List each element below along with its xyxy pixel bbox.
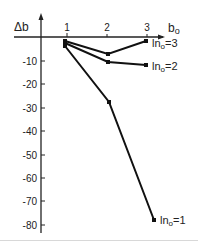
- svg-text:-70: -70: [23, 196, 38, 207]
- svg-text:1: 1: [64, 22, 70, 33]
- chart: Δb bo 1 2 3 -10 -20 -30 -40 -50 -60 -70 …: [0, 0, 198, 243]
- y-axis-arrow-icon: [39, 13, 44, 20]
- svg-text:2: 2: [104, 22, 110, 33]
- series-label-ln3: lno=3: [152, 37, 178, 51]
- svg-text:-80: -80: [23, 220, 38, 231]
- series-label-ln1: lno=1: [160, 214, 186, 228]
- svg-text:-10: -10: [23, 56, 38, 67]
- svg-text:-60: -60: [23, 173, 38, 184]
- series-ln3: lno=3: [63, 37, 178, 56]
- svg-text:-40: -40: [23, 126, 38, 137]
- series-label-ln2: lno=2: [152, 60, 178, 74]
- svg-text:-50: -50: [23, 150, 38, 161]
- svg-text:-20: -20: [23, 79, 38, 90]
- svg-text:-30: -30: [23, 103, 38, 114]
- x-ticks: 1 2 3: [64, 22, 150, 37]
- svg-text:3: 3: [144, 22, 150, 33]
- divider: [0, 240, 198, 241]
- y-axis-label: Δb: [14, 20, 29, 34]
- x-axis-label: bo: [168, 21, 180, 36]
